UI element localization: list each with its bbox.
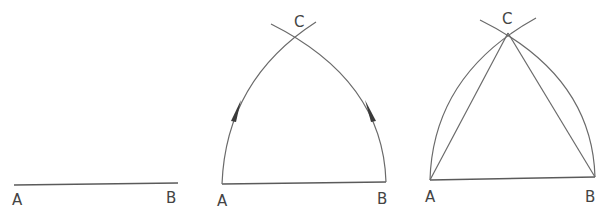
label-b: B <box>166 189 176 207</box>
segment-ab <box>14 183 178 185</box>
label-c: C <box>294 13 304 31</box>
side-ac <box>430 33 508 180</box>
arc-centered-b <box>430 18 536 180</box>
panel-step2: A B C <box>217 13 387 210</box>
arc-centered-b <box>222 22 316 184</box>
panel-step3: A B C <box>425 10 595 206</box>
label-a: A <box>425 188 436 206</box>
label-b: B <box>585 188 595 206</box>
arrow-up-right-icon <box>365 100 376 122</box>
construction-diagram: A B A B C A B C <box>0 0 603 224</box>
side-bc <box>508 33 595 177</box>
label-a: A <box>12 191 23 209</box>
arc-centered-a <box>271 24 386 182</box>
label-a: A <box>217 192 228 210</box>
segment-ab <box>430 177 595 180</box>
segment-ab <box>222 182 386 184</box>
panel-step1: A B <box>12 183 178 209</box>
label-c: C <box>502 10 512 28</box>
label-b: B <box>377 190 387 208</box>
arrow-up-left-icon <box>231 100 241 122</box>
